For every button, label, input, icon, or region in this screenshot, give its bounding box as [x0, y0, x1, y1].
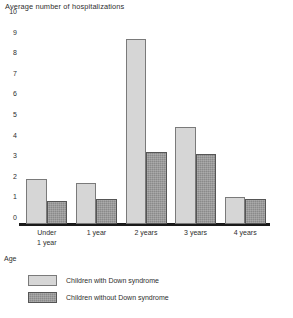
y-axis-tick-label: 4 [5, 131, 17, 138]
bar [175, 127, 196, 224]
y-axis-tick-label: 9 [5, 28, 17, 35]
bar [126, 39, 147, 224]
legend-item: Children without Down syndrome [28, 291, 169, 304]
legend-swatch [28, 292, 57, 303]
bar [146, 152, 167, 224]
bar [245, 199, 266, 224]
legend-label: Children with Down syndrome [66, 277, 159, 284]
bar [96, 199, 117, 224]
x-axis-tick-label: 4 years [220, 228, 270, 238]
bar [196, 154, 217, 224]
bar [26, 179, 47, 224]
y-axis-tick-label: 1 [5, 193, 17, 200]
legend-item: Children with Down syndrome [28, 274, 169, 287]
y-axis-tick-label: 3 [5, 152, 17, 159]
x-axis-tick-label: 1 year [72, 228, 122, 238]
y-axis-tick-label: 5 [5, 111, 17, 118]
y-axis-tick-label: 2 [5, 172, 17, 179]
y-axis-tick-label: 6 [5, 90, 17, 97]
x-axis-tick-label: Under 1 year [22, 228, 72, 247]
chart-legend: Children with Down syndromeChildren with… [28, 274, 169, 308]
legend-swatch [28, 275, 57, 286]
bar [225, 197, 246, 224]
x-axis-tick-label: 2 years [121, 228, 171, 238]
chart-title: Average number of hospitalizations [5, 2, 124, 11]
y-axis-tick-label: 7 [5, 69, 17, 76]
plot-area: 012345678910 [22, 18, 270, 224]
x-axis-tick-label: 3 years [171, 228, 221, 238]
bar-chart: Average number of hospitalizations 01234… [0, 0, 293, 318]
bar [76, 183, 97, 224]
legend-label: Children without Down syndrome [66, 294, 169, 301]
bar [47, 201, 68, 224]
y-axis-tick-label: 8 [5, 49, 17, 56]
x-axis-title: Age [4, 255, 16, 262]
bars-layer [22, 18, 270, 224]
x-axis-category-labels: Under 1 year1 year2 years3 years4 years [22, 228, 270, 254]
y-axis-tick-label: 10 [5, 8, 17, 15]
y-axis-tick-label: 0 [5, 214, 17, 221]
